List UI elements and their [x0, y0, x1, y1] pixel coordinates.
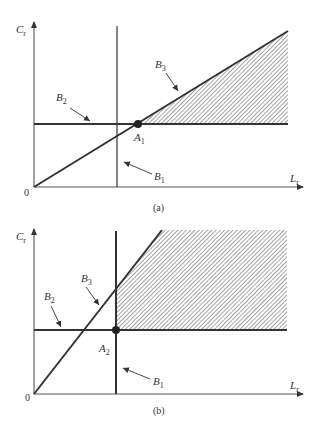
label-b3: B3 [81, 272, 92, 287]
origin-label: 0 [25, 392, 30, 403]
arrow-b1 [124, 162, 152, 174]
label-b2: B2 [56, 91, 67, 106]
panel-a: Cr Lr 0 B2 B3 A1 B1 (a) [16, 22, 303, 214]
arrow-b3 [166, 73, 178, 91]
y-axis-label: Cr [16, 230, 26, 245]
origin-label: 0 [24, 187, 29, 198]
panel-b: Cr Lr 0 B2 B3 A2 B1 (b) [16, 229, 303, 417]
caption-b: (b) [153, 405, 165, 417]
figure-canvas: Cr Lr 0 B2 B3 A1 B1 (a) Cr Lr 0 B2 B3 [0, 0, 317, 435]
point-a1 [134, 120, 142, 128]
point-a2 [112, 326, 120, 334]
label-a1: A1 [133, 131, 145, 146]
label-a2: A2 [98, 342, 110, 357]
arrow-b1 [123, 368, 150, 379]
label-b2: B2 [44, 290, 55, 305]
arrow-b3 [86, 287, 99, 305]
x-axis-label: Lr [289, 379, 299, 394]
arrow-b2 [70, 108, 90, 121]
caption-a: (a) [153, 202, 164, 214]
y-axis-label: Cr [16, 23, 26, 38]
arrow-b2 [51, 306, 61, 327]
feasible-region-hatch [116, 230, 287, 330]
label-b1: B1 [153, 375, 164, 390]
x-axis-label: Lr [289, 172, 299, 187]
label-b1: B1 [154, 170, 165, 185]
label-b3: B3 [155, 58, 166, 73]
